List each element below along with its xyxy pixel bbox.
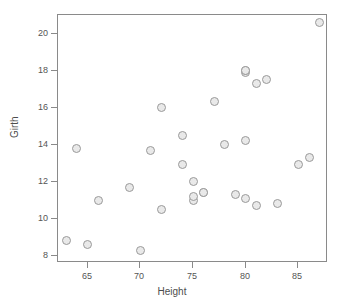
data-point: [252, 201, 261, 210]
data-point: [262, 75, 271, 84]
y-axis-tick-label: 10: [38, 214, 48, 223]
scatter-plot-figure: Girth 8101214161820 6570758085 Height: [0, 0, 344, 305]
data-point: [252, 79, 261, 88]
data-point: [294, 160, 303, 169]
y-axis-tick-label: 20: [38, 29, 48, 38]
x-axis-tick: [245, 262, 246, 268]
x-axis-tick: [192, 262, 193, 268]
x-axis-tick-label: 70: [134, 272, 144, 281]
data-point: [231, 190, 240, 199]
data-point: [189, 177, 198, 186]
data-point: [189, 192, 198, 201]
data-point: [305, 153, 314, 162]
data-point: [94, 196, 103, 205]
data-point: [315, 18, 324, 27]
data-point: [125, 183, 134, 192]
x-axis-title: Height: [0, 287, 344, 297]
y-axis-title: Girth: [10, 116, 20, 138]
data-point: [178, 131, 187, 140]
data-point: [83, 240, 92, 249]
data-point: [210, 97, 219, 106]
x-axis-tick-label: 75: [187, 272, 197, 281]
data-point: [157, 205, 166, 214]
data-point: [273, 199, 282, 208]
x-axis-tick: [297, 262, 298, 268]
data-point: [72, 144, 81, 153]
y-axis-tick-label: 12: [38, 177, 48, 186]
x-axis-tick-label: 65: [82, 272, 92, 281]
y-axis-tick-label: 16: [38, 103, 48, 112]
data-points-layer: [58, 15, 326, 261]
data-point: [136, 246, 145, 255]
data-point: [146, 146, 155, 155]
data-point: [241, 194, 250, 203]
y-axis-tick-label: 8: [43, 251, 48, 260]
x-axis-tick: [139, 262, 140, 268]
x-axis-tick-label: 80: [240, 272, 250, 281]
data-point: [157, 103, 166, 112]
data-point: [178, 160, 187, 169]
data-point: [199, 188, 208, 197]
x-axis-tick-label: 85: [292, 272, 302, 281]
y-axis-tick-label: 18: [38, 66, 48, 75]
y-axis-tick-label: 14: [38, 140, 48, 149]
plot-area: [57, 14, 327, 262]
data-point: [220, 140, 229, 149]
data-point: [241, 136, 250, 145]
data-point: [62, 236, 71, 245]
x-axis-tick: [87, 262, 88, 268]
